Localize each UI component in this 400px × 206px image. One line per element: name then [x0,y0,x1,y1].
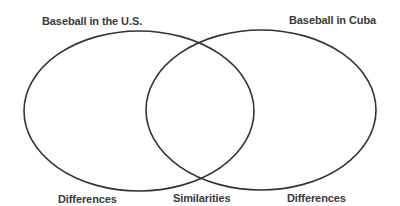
left-differences-label: Differences [58,193,117,205]
right-circle-title: Baseball in Cuba [289,14,376,26]
right-differences-label: Differences [287,192,346,204]
similarities-label: Similarities [173,192,231,204]
venn-diagram [0,0,400,206]
left-circle-title: Baseball in the U.S. [42,15,142,27]
left-ellipse-us [24,31,254,191]
right-ellipse-cuba [146,30,376,190]
